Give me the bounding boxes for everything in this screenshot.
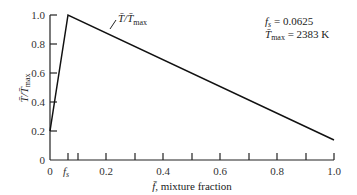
y-tick-label: 0.2 [31, 125, 45, 137]
y-axis-label: T̄/T̄max [18, 73, 32, 102]
chart-svg: 1.0 0.8 0.6 0.4 0.2 0 0 0.2 0.4 0.6 0.8 … [0, 0, 357, 195]
tmax-annotation: T̄max = 2383 K [265, 28, 329, 42]
y-ticks [50, 15, 57, 131]
x-axis-label: f̄, mixture fraction [152, 180, 232, 192]
series-label-leader [110, 20, 116, 29]
fs-annotation: fs = 0.0625 [265, 15, 314, 29]
x-tick-label: 0.4 [156, 165, 170, 177]
y-tick-label: 0 [40, 154, 46, 166]
x-ticks [68, 153, 334, 160]
x-tick-labels: 0 0.2 0.4 0.6 0.8 1.0 fs [47, 165, 341, 179]
y-tick-label: 0.6 [31, 67, 45, 79]
y-tick-label: 0.8 [31, 38, 45, 50]
x-tick-label: 0.2 [99, 165, 113, 177]
y-tick-labels: 1.0 0.8 0.6 0.4 0.2 0 [31, 9, 45, 166]
series-label: T̄/T̄max [118, 12, 147, 27]
x-tick-label: 0.6 [213, 165, 227, 177]
x-tick-label-fs: fs [63, 165, 69, 179]
x-tick-label: 1.0 [327, 165, 341, 177]
y-tick-label: 0.4 [31, 96, 45, 108]
x-tick-label: 0.8 [270, 165, 284, 177]
y-tick-label: 1.0 [31, 9, 45, 21]
x-tick-label: 0 [47, 165, 53, 177]
